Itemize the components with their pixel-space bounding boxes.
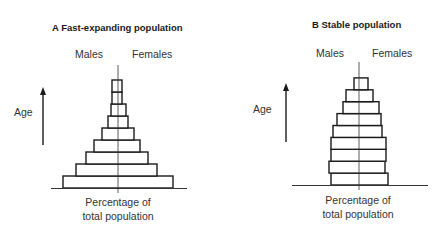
pyramid-bar bbox=[86, 152, 148, 164]
pyramid-b bbox=[283, 62, 428, 190]
pyramid-bar bbox=[343, 102, 379, 114]
pyramid-bar bbox=[329, 161, 385, 173]
arrow-up-icon bbox=[40, 87, 46, 95]
pyramid-bar bbox=[346, 90, 373, 102]
pyramid-bar bbox=[94, 140, 140, 152]
arrow-up-icon bbox=[283, 83, 289, 91]
pyramid-bar bbox=[112, 92, 122, 104]
pyramid-bar bbox=[331, 137, 386, 149]
pyramid-bar bbox=[111, 104, 126, 116]
pyramid-bar bbox=[354, 78, 368, 90]
pyramid-bar bbox=[76, 164, 157, 176]
pyramid-bar bbox=[112, 80, 122, 92]
pyramid-a bbox=[40, 65, 187, 193]
pyramid-bar bbox=[331, 173, 388, 185]
pyramid-bar bbox=[333, 126, 382, 138]
pyramid-bar bbox=[331, 149, 386, 161]
population-pyramids-figure bbox=[0, 0, 438, 231]
